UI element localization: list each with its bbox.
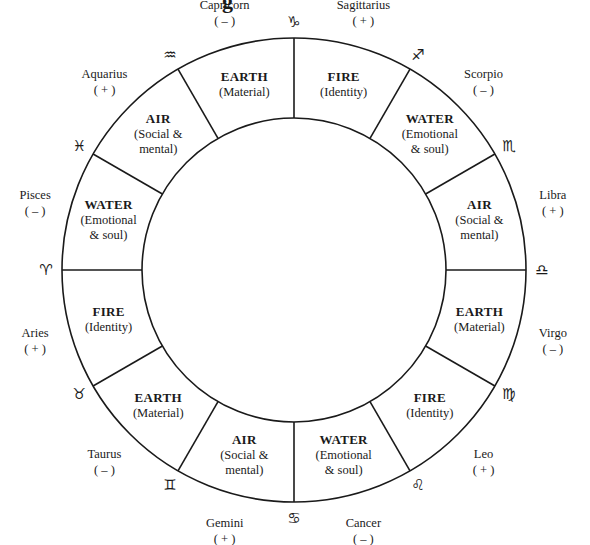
element-label-scorpio: WATER(Emotional& soul) xyxy=(402,111,459,156)
sign-name: Aquarius xyxy=(82,67,128,81)
element-name: WATER xyxy=(84,197,133,212)
sign-label-aries: Aries( + ) xyxy=(22,326,49,356)
sign-name: Cancer xyxy=(346,516,382,530)
element-description: (Material) xyxy=(454,320,505,334)
inner-ring xyxy=(142,118,446,422)
sign-label-scorpio: Scorpio( – ) xyxy=(464,67,503,97)
sign-polarity: ( + ) xyxy=(353,14,375,28)
aries-glyph-icon: ♈ xyxy=(39,261,52,279)
sign-label-virgo: Virgo( – ) xyxy=(539,326,567,356)
sign-name: Gemini xyxy=(206,516,244,530)
sign-name: Taurus xyxy=(88,447,122,461)
sign-polarity: ( – ) xyxy=(25,204,46,218)
element-description: & soul) xyxy=(90,228,128,242)
element-name: FIRE xyxy=(414,390,446,405)
pisces-glyph-icon: ♓ xyxy=(72,137,85,155)
sign-name: Sagittarius xyxy=(337,0,391,12)
sign-name: Capricorn xyxy=(200,0,251,12)
element-name: EARTH xyxy=(221,69,268,84)
element-description: (Emotional xyxy=(316,448,373,462)
aquarius-glyph-icon: ♒ xyxy=(163,46,176,64)
sign-name: Scorpio xyxy=(464,67,503,81)
element-label-taurus: EARTH(Material) xyxy=(133,390,184,420)
element-name: FIRE xyxy=(92,304,124,319)
sagittarius-glyph-icon: ♐ xyxy=(411,46,424,64)
segment-dividers xyxy=(62,38,526,502)
sign-polarity: ( + ) xyxy=(24,342,46,356)
element-name: EARTH xyxy=(135,390,182,405)
element-description: (Material) xyxy=(219,85,270,99)
libra-glyph-icon: ♎ xyxy=(535,261,548,279)
sign-name: Libra xyxy=(539,188,567,202)
element-name: AIR xyxy=(467,197,492,212)
element-description: (Social & xyxy=(455,213,504,227)
divider-line xyxy=(178,402,218,471)
sign-polarity: ( + ) xyxy=(214,532,236,545)
element-name: WATER xyxy=(406,111,455,126)
sign-polarity: ( – ) xyxy=(94,463,115,477)
element-name: AIR xyxy=(146,111,171,126)
sign-name: Aries xyxy=(22,326,49,340)
element-label-pisces: WATER(Emotional& soul) xyxy=(80,197,137,242)
sign-polarity: ( + ) xyxy=(542,204,564,218)
divider-line xyxy=(178,69,218,138)
element-label-virgo: EARTH(Material) xyxy=(454,304,505,334)
capricorn-glyph-icon: ♑ xyxy=(287,13,300,31)
element-label-capricorn: EARTH(Material) xyxy=(219,69,270,99)
element-label-cancer: WATER(Emotional& soul) xyxy=(316,432,373,477)
segment-labels: EARTH(Material)AIR(Social &mental)WATER(… xyxy=(80,69,504,477)
element-description: (Material) xyxy=(133,406,184,420)
element-description: (Identity) xyxy=(85,320,132,334)
sign-polarity: ( + ) xyxy=(473,463,495,477)
element-description: mental) xyxy=(225,463,263,477)
element-name: AIR xyxy=(232,432,257,447)
sign-label-cancer: Cancer( – ) xyxy=(346,516,382,545)
divider-line xyxy=(426,346,495,386)
sign-label-pisces: Pisces( – ) xyxy=(20,188,51,218)
sign-label-capricorn: Capricorn( – ) xyxy=(200,0,251,28)
zodiac-element-wheel: g EARTH(Material)AIR(Social &mental)WATE… xyxy=(0,0,590,545)
wheel-svg: g EARTH(Material)AIR(Social &mental)WATE… xyxy=(0,0,590,545)
element-description: (Emotional xyxy=(80,213,137,227)
sign-polarity: ( – ) xyxy=(214,14,235,28)
element-label-gemini: AIR(Social &mental) xyxy=(220,432,269,477)
sign-label-taurus: Taurus( – ) xyxy=(88,447,122,477)
leo-glyph-icon: ♌ xyxy=(411,476,424,494)
sign-label-libra: Libra( + ) xyxy=(539,188,567,218)
sign-label-leo: Leo( + ) xyxy=(473,447,495,477)
taurus-glyph-icon: ♉ xyxy=(72,385,85,403)
element-description: (Identity) xyxy=(320,85,367,99)
element-description: (Social & xyxy=(220,448,269,462)
element-name: WATER xyxy=(320,432,369,447)
sign-label-gemini: Gemini( + ) xyxy=(206,516,244,545)
element-label-aquarius: AIR(Social &mental) xyxy=(134,111,183,156)
sign-polarity: ( – ) xyxy=(542,342,563,356)
sign-label-aquarius: Aquarius( + ) xyxy=(82,67,128,97)
element-label-leo: FIRE(Identity) xyxy=(406,390,453,420)
element-description: (Social & xyxy=(134,127,183,141)
element-description: (Emotional xyxy=(402,127,459,141)
divider-line xyxy=(370,402,410,471)
sign-label-sagittarius: Sagittarius( + ) xyxy=(337,0,391,28)
sign-polarity: ( + ) xyxy=(94,83,116,97)
element-label-aries: FIRE(Identity) xyxy=(85,304,132,334)
divider-line xyxy=(426,154,495,194)
element-description: & soul) xyxy=(325,463,363,477)
element-description: (Identity) xyxy=(406,406,453,420)
divider-line xyxy=(93,346,162,386)
element-description: mental) xyxy=(139,142,177,156)
element-description: & soul) xyxy=(411,142,449,156)
sign-name: Virgo xyxy=(539,326,567,340)
element-label-sagittarius: FIRE(Identity) xyxy=(320,69,367,99)
element-name: EARTH xyxy=(456,304,503,319)
sign-name: Leo xyxy=(474,447,493,461)
divider-line xyxy=(93,154,162,194)
sign-polarity: ( – ) xyxy=(473,83,494,97)
virgo-glyph-icon: ♍ xyxy=(502,385,515,403)
gemini-glyph-icon: ♊ xyxy=(163,476,176,494)
sign-name: Pisces xyxy=(20,188,51,202)
element-name: FIRE xyxy=(328,69,360,84)
sign-polarity: ( – ) xyxy=(353,532,374,545)
element-label-libra: AIR(Social &mental) xyxy=(455,197,504,242)
cancer-glyph-icon: ♋ xyxy=(287,509,300,527)
